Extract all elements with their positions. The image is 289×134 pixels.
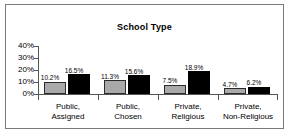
bar-value-label: 10.2% <box>33 74 67 81</box>
bar-group: 4.7% 6.2% <box>218 46 278 94</box>
x-tick-mark <box>38 95 39 100</box>
x-category-label-line2: Assigned <box>35 112 101 122</box>
bar-value-label: 7.5% <box>153 77 187 84</box>
y-tick-label: 20% <box>0 66 34 74</box>
bar-group: 10.2% 16.5% <box>38 46 98 94</box>
x-tick-mark <box>218 95 219 100</box>
y-tick-label: 10% <box>0 78 34 86</box>
bar-group-bars: 4.7% 6.2% <box>218 46 278 94</box>
x-tick-mark <box>277 95 278 100</box>
bar-series-1[interactable] <box>44 82 66 94</box>
bar-value-label: 18.9% <box>177 64 211 71</box>
x-tick-mark <box>98 95 99 100</box>
x-category-label-line2: Religious <box>155 112 221 122</box>
x-category-label-line1: Private, <box>155 102 221 112</box>
chart-figure: School Type 40% 30% 20% 10% 0% 10.2% 16.… <box>0 0 289 134</box>
bar-series-1[interactable] <box>164 85 186 94</box>
bar-value-label: 16.5% <box>57 67 91 74</box>
x-category-label-line1: Private, <box>215 102 281 112</box>
bar-series-1[interactable] <box>104 80 126 94</box>
bar-value-label: 6.2% <box>237 79 271 86</box>
bar-group: 7.5% 18.9% <box>158 46 218 94</box>
bar-series-2[interactable] <box>248 87 270 94</box>
bar-series-1[interactable] <box>224 88 246 94</box>
bar-group-bars: 11.3% 15.6% <box>98 46 158 94</box>
x-category-label-line1: Public, <box>35 102 101 112</box>
bar-series-2[interactable] <box>188 71 210 94</box>
x-tick-mark <box>158 95 159 100</box>
bar-value-label: 15.6% <box>117 68 151 75</box>
x-category-label: Public, Chosen <box>95 102 161 122</box>
chart-title: School Type <box>0 22 289 32</box>
bar-group-bars: 10.2% 16.5% <box>38 46 98 94</box>
x-category-label-line2: Non-Religious <box>215 112 281 122</box>
y-tick-label: 30% <box>0 54 34 62</box>
bar-group: 11.3% 15.6% <box>98 46 158 94</box>
bar-series-2[interactable] <box>68 74 90 94</box>
y-tick-label: 40% <box>0 42 34 50</box>
bar-series-2[interactable] <box>128 75 150 94</box>
bar-group-bars: 7.5% 18.9% <box>158 46 218 94</box>
y-tick-label: 0% <box>0 90 34 98</box>
x-category-label: Private, Non-Religious <box>215 102 281 122</box>
x-category-label: Public, Assigned <box>35 102 101 122</box>
x-category-label-line1: Public, <box>95 102 161 112</box>
x-category-label: Private, Religious <box>155 102 221 122</box>
x-category-label-line2: Chosen <box>95 112 161 122</box>
